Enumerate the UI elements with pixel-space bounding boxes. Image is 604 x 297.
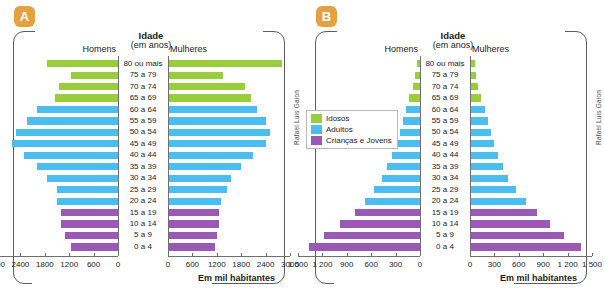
- bar-male: [406, 106, 420, 113]
- bar-male: [365, 198, 420, 205]
- bar-female: [168, 140, 266, 147]
- bar-male: [47, 60, 118, 67]
- x-tick: [298, 253, 299, 256]
- legend-swatch: [311, 114, 322, 123]
- legend-swatch: [311, 136, 322, 145]
- bar-male: [61, 220, 118, 227]
- age-group-label: 80 ou mais: [118, 58, 168, 69]
- legend: IdososAdultosCrianças e Jovens: [306, 110, 398, 149]
- age-group-label: 35 a 39: [420, 161, 470, 172]
- bar-female: [470, 163, 503, 170]
- x-tick: [543, 253, 544, 256]
- bar-female: [470, 209, 537, 216]
- bar-male: [374, 186, 420, 193]
- bar-female: [168, 106, 257, 113]
- bar-male: [403, 117, 420, 124]
- bar-male: [324, 232, 420, 239]
- age-group-label: 70 a 74: [420, 81, 470, 92]
- x-tick: [396, 253, 397, 256]
- bar-female: [168, 163, 241, 170]
- x-tick: [69, 253, 70, 256]
- panel-a-credit: Rafael Luis Gaion: [293, 90, 300, 145]
- legend-label: Crianças e Jovens: [326, 137, 392, 145]
- age-group-label: 40 a 44: [118, 150, 168, 161]
- bar-male: [57, 198, 118, 205]
- x-axis-left: [0, 256, 118, 257]
- bar-female: [168, 175, 231, 182]
- bar-male: [55, 94, 118, 101]
- center-axis-line: [168, 56, 169, 254]
- age-group-label: 40 a 44: [420, 150, 470, 161]
- x-tick: [592, 253, 593, 256]
- age-group-label: 20 a 24: [118, 195, 168, 206]
- x-tick: [519, 253, 520, 256]
- age-group-label: 70 a 74: [118, 81, 168, 92]
- bar-female: [168, 94, 251, 101]
- panel-b-axis-caption: Em mil habitantes: [500, 273, 577, 283]
- x-tick-label: 3000: [0, 260, 12, 269]
- x-tick: [241, 253, 242, 256]
- bar-female: [168, 129, 270, 136]
- age-group-label: 10 a 14: [420, 218, 470, 229]
- x-tick: [322, 253, 323, 256]
- bar-female: [168, 83, 245, 90]
- age-group-label: 50 a 54: [118, 127, 168, 138]
- bar-male: [65, 232, 118, 239]
- legend-item: Adultos: [311, 125, 392, 134]
- x-tick-label: 1 500: [282, 260, 314, 269]
- age-group-label: 45 a 49: [420, 138, 470, 149]
- age-group-label: 45 a 49: [118, 138, 168, 149]
- age-group-label: 60 a 64: [118, 104, 168, 115]
- legend-label: Adultos: [326, 126, 353, 134]
- x-axis-left: [298, 256, 420, 257]
- x-tick: [45, 253, 46, 256]
- bar-female: [470, 106, 485, 113]
- x-tick: [192, 253, 193, 256]
- bar-male: [400, 129, 420, 136]
- bar-female: [470, 175, 508, 182]
- bar-female: [470, 83, 478, 90]
- bar-male: [392, 152, 420, 159]
- bar-female: [470, 129, 491, 136]
- bar-female: [168, 243, 215, 250]
- bar-female: [168, 60, 282, 67]
- bar-male: [24, 152, 118, 159]
- bar-male: [71, 243, 118, 250]
- bar-male: [396, 140, 420, 147]
- bar-female: [168, 220, 219, 227]
- bar-male: [409, 94, 420, 101]
- x-tick: [94, 253, 95, 256]
- panel-b-credit: Rafael Luis Gaion: [595, 90, 602, 145]
- age-group-label: 15 a 19: [118, 207, 168, 218]
- bar-female: [470, 117, 488, 124]
- x-tick: [470, 253, 471, 256]
- bar-female: [470, 140, 494, 147]
- x-axis-right: [168, 256, 290, 257]
- x-tick: [494, 253, 495, 256]
- panel-a-axis-caption: Em mil habitantes: [198, 273, 275, 283]
- age-group-label: 20 a 24: [420, 195, 470, 206]
- panel-a: A Idade (em anos) Homens Mulheres 80 ou …: [0, 0, 302, 297]
- age-group-label: 25 a 29: [118, 184, 168, 195]
- legend-item: Crianças e Jovens: [311, 136, 392, 145]
- bar-male: [12, 140, 118, 147]
- age-group-label: 0 a 4: [420, 241, 470, 252]
- bar-male: [71, 72, 118, 79]
- bar-female: [470, 243, 581, 250]
- bar-male: [382, 175, 420, 182]
- age-group-label: 30 a 34: [420, 173, 470, 184]
- x-tick: [266, 253, 267, 256]
- center-axis-line: [118, 56, 119, 254]
- age-group-label: 25 a 29: [420, 184, 470, 195]
- x-tick-label: 1 500: [576, 260, 604, 269]
- x-tick: [568, 253, 569, 256]
- age-group-label: 60 a 64: [420, 104, 470, 115]
- age-group-label: 75 a 79: [118, 69, 168, 80]
- bar-male: [47, 175, 118, 182]
- age-group-label: 0 a 4: [118, 241, 168, 252]
- age-group-label: 55 a 59: [118, 115, 168, 126]
- bar-female: [470, 232, 564, 239]
- x-tick: [217, 253, 218, 256]
- bar-female: [168, 232, 217, 239]
- bar-female: [168, 152, 253, 159]
